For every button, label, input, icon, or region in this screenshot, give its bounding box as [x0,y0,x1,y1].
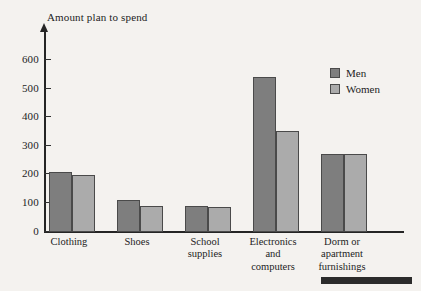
x-category-label-dorm: Dorm or apartment furnishings [301,236,383,273]
bar-shoes-men [117,200,140,232]
legend-label-men: Men [346,68,366,79]
y-axis-title: Amount plan to spend [47,11,147,23]
x-category-label-dorm-line2: apartment [301,248,383,260]
y-tick-label-200: 200 [22,168,39,179]
bar-clothing-men [49,172,72,232]
bar-dorm-men [321,154,344,232]
x-category-label-dorm-line1: Dorm or [301,236,383,248]
bar-school-supplies-men [185,206,208,232]
bar-clothing-women [72,175,95,232]
bar-chart-figure: Amount plan to spend 0 100 200 300 400 5… [0,0,421,291]
y-tick-label-500: 500 [22,83,39,94]
y-axis-arrowhead-icon [40,23,48,32]
y-tick-label-600: 600 [22,54,39,65]
legend-item-women: Women [330,82,380,96]
bar-electronics-women [276,131,299,232]
x-category-label-dorm-line3: furnishings [301,261,383,273]
bar-shoes-women [140,206,163,232]
bar-electronics-men [253,77,276,232]
legend-swatch-men-icon [330,68,340,78]
y-tick-label-300: 300 [22,140,39,151]
bottom-right-rule [321,277,412,284]
chart-legend: Men Women [330,66,380,98]
bar-dorm-women [344,154,367,232]
legend-label-women: Women [346,84,380,95]
y-tick-label-400: 400 [22,111,39,122]
legend-item-men: Men [330,66,380,80]
bar-school-supplies-women [208,207,231,232]
legend-swatch-women-icon [330,84,340,94]
y-tick-label-100: 100 [22,197,39,208]
